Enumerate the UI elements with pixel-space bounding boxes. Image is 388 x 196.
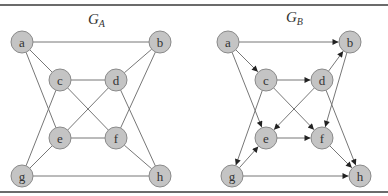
node-label: g xyxy=(19,169,26,184)
node-label: d xyxy=(319,73,326,88)
node-label: c xyxy=(57,73,63,88)
node-f: f xyxy=(311,127,333,149)
edge-a-c xyxy=(236,50,258,72)
node-e: e xyxy=(255,127,277,149)
graph-gb: GB abcdefgh xyxy=(217,9,371,187)
node-label: h xyxy=(157,169,164,184)
node-label: e xyxy=(57,131,63,146)
edge-f-h xyxy=(330,146,352,168)
node-b: b xyxy=(149,31,171,53)
node-f: f xyxy=(105,127,127,149)
graph-gb-edges xyxy=(232,42,356,176)
graph-ga: GA abcdefgh xyxy=(11,11,171,187)
node-label: h xyxy=(357,169,364,184)
node-g: g xyxy=(11,165,33,187)
node-b: b xyxy=(339,31,361,53)
graph-gb-title: GB xyxy=(286,9,303,27)
node-e: e xyxy=(49,127,71,149)
node-a: a xyxy=(11,31,33,53)
node-c: c xyxy=(255,69,277,91)
node-label: f xyxy=(320,131,325,146)
node-label: d xyxy=(113,73,120,88)
node-label: f xyxy=(114,131,119,146)
node-h: h xyxy=(149,165,171,187)
graph-ga-edges xyxy=(26,42,155,176)
edge-c-g xyxy=(26,90,56,166)
node-label: b xyxy=(157,35,164,50)
node-label: a xyxy=(225,35,231,50)
node-label: b xyxy=(347,35,354,50)
node-d: d xyxy=(105,69,127,91)
node-d: d xyxy=(311,69,333,91)
node-label: c xyxy=(263,73,269,88)
edge-b-f xyxy=(121,52,156,128)
node-g: g xyxy=(221,165,243,187)
node-a: a xyxy=(217,31,239,53)
edge-a-e xyxy=(232,52,262,127)
graph-canvas: GA abcdefgh GB abcdefgh xyxy=(0,0,388,196)
node-h: h xyxy=(349,165,371,187)
edge-g-e xyxy=(239,147,258,168)
edge-c-g xyxy=(236,90,262,165)
node-label: a xyxy=(19,35,25,50)
node-label: e xyxy=(263,131,269,146)
edge-d-h xyxy=(121,90,156,166)
edge-d-b xyxy=(329,51,344,71)
edge-a-e xyxy=(26,52,56,128)
graph-ga-title: GA xyxy=(88,11,106,29)
node-c: c xyxy=(49,69,71,91)
node-label: g xyxy=(229,169,236,184)
edge-d-h xyxy=(326,90,356,165)
